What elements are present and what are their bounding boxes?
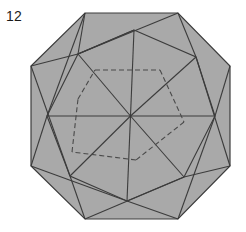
figure-container: 12 Octagon origami crease pattern diagra… (0, 0, 246, 232)
figure-number-label: 12 (6, 8, 22, 24)
origami-crease-pattern-diagram: Octagon origami crease pattern diagram 1… (0, 0, 246, 232)
